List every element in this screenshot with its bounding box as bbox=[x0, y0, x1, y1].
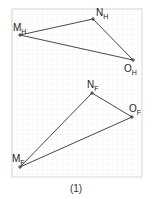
grid-frame bbox=[12, 9, 142, 177]
vertex-subscript: H bbox=[132, 69, 137, 76]
vertex-subscript: H bbox=[21, 28, 26, 35]
figure-caption: (1) bbox=[70, 183, 82, 194]
triangle-diagram: MHNHOHNFOFMF (1) bbox=[0, 0, 153, 199]
vertex-subscript: F bbox=[94, 85, 98, 92]
vertex-subscript: F bbox=[20, 159, 24, 166]
vertex-subscript: F bbox=[137, 109, 141, 116]
vertex-subscript: H bbox=[103, 13, 108, 20]
